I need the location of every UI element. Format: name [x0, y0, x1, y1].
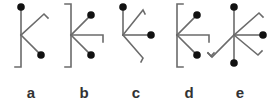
panel-label-c: c — [126, 84, 146, 100]
atom-dot — [17, 3, 25, 11]
panel-c-structure — [123, 7, 151, 62]
panel-label-b: b — [74, 84, 94, 100]
atom-dot — [193, 51, 201, 59]
atom-dot — [147, 31, 155, 39]
atom-dot — [230, 59, 238, 67]
panel-b-structure — [65, 4, 103, 67]
atom-dot — [259, 31, 267, 39]
atom-dot — [119, 3, 127, 11]
panel-label-a: a — [21, 84, 41, 100]
atom-dot — [37, 51, 45, 59]
atom-dot — [230, 3, 238, 11]
atom-dot — [87, 11, 95, 19]
atom-dot — [193, 11, 201, 19]
panel-e-structure — [208, 7, 263, 63]
panel-label-e: e — [230, 84, 250, 100]
panel-label-d: d — [179, 84, 199, 100]
atom-dot — [87, 51, 95, 59]
